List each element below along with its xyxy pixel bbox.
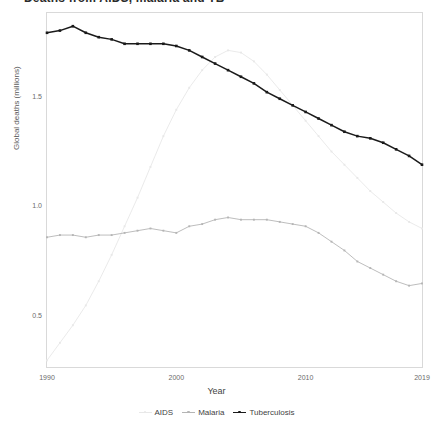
data-point	[162, 135, 164, 137]
data-point	[279, 221, 281, 223]
data-point	[175, 109, 177, 111]
data-point	[317, 117, 320, 120]
data-point	[59, 29, 62, 32]
data-point	[46, 359, 48, 361]
data-point	[188, 87, 190, 89]
data-point	[162, 42, 165, 45]
data-point	[214, 62, 217, 65]
data-point	[72, 25, 75, 28]
data-point	[421, 163, 424, 166]
x-tick-label: 2010	[286, 374, 326, 382]
data-point	[124, 225, 126, 227]
data-point	[330, 124, 333, 127]
data-point	[188, 225, 190, 227]
data-point	[72, 324, 74, 326]
data-point	[266, 74, 268, 76]
data-point	[356, 135, 359, 138]
legend-key-malaria[interactable]: Malaria	[182, 408, 224, 417]
y-tick-label: 1.0	[20, 202, 42, 210]
data-point	[292, 223, 294, 225]
data-point	[318, 135, 320, 137]
data-point	[97, 36, 100, 39]
data-point	[201, 223, 203, 225]
data-point	[395, 280, 397, 282]
data-point	[72, 234, 74, 236]
data-point	[395, 212, 397, 214]
legend-key-aids[interactable]: AIDS	[139, 408, 174, 417]
data-point	[227, 69, 230, 72]
legend-swatch-icon	[233, 412, 246, 413]
data-point	[214, 219, 216, 221]
data-point	[408, 221, 410, 223]
data-point	[85, 304, 87, 306]
series-line	[47, 217, 422, 285]
x-tick-label: 1990	[27, 374, 67, 382]
x-tick-label: 2000	[156, 374, 196, 382]
chart-legend: AIDSMalariaTuberculosis	[0, 408, 433, 417]
legend-swatch-icon	[182, 412, 195, 413]
data-point	[331, 241, 333, 243]
data-point	[46, 31, 49, 34]
data-point	[369, 190, 371, 192]
data-point	[240, 219, 242, 221]
data-point	[149, 228, 151, 230]
x-tick-label: 2019	[402, 374, 433, 382]
legend-label: AIDS	[155, 408, 174, 417]
data-point	[253, 60, 255, 62]
data-point	[278, 97, 281, 100]
data-point	[408, 155, 411, 158]
x-axis-label: Year	[0, 386, 433, 396]
data-point	[304, 111, 307, 114]
data-point	[369, 267, 371, 269]
data-point	[240, 75, 243, 78]
data-point	[291, 104, 294, 107]
data-point	[175, 45, 178, 48]
data-point	[137, 197, 139, 199]
legend-key-tuberculosis[interactable]: Tuberculosis	[233, 408, 294, 417]
data-point	[266, 219, 268, 221]
series-tuberculosis	[46, 25, 424, 166]
data-point	[110, 38, 113, 41]
data-point	[369, 137, 372, 140]
series-aids	[46, 49, 423, 361]
data-point	[382, 141, 385, 144]
data-point	[175, 232, 177, 234]
data-point	[356, 261, 358, 263]
data-point	[136, 42, 139, 45]
chart-page: Deaths from AIDS, malaria and TB 1.51.00…	[0, 0, 433, 441]
data-point	[149, 42, 152, 45]
data-point	[382, 274, 384, 276]
series-line	[47, 50, 422, 360]
data-point	[421, 228, 423, 230]
data-point	[188, 49, 191, 52]
data-point	[124, 232, 126, 234]
y-axis-label: Global deaths (millions)	[12, 66, 21, 150]
data-point	[253, 82, 256, 85]
y-tick-label: 0.5	[20, 312, 42, 320]
data-point	[137, 230, 139, 232]
data-point	[343, 250, 345, 252]
data-point	[305, 120, 307, 122]
data-point	[111, 254, 113, 256]
data-point	[162, 230, 164, 232]
data-point	[253, 219, 255, 221]
y-axis-label-wrap: Global deaths (millions)	[12, 150, 22, 270]
data-point	[343, 130, 346, 133]
data-point	[279, 89, 281, 91]
data-point	[98, 280, 100, 282]
data-point	[382, 201, 384, 203]
data-point	[149, 166, 151, 168]
data-point	[356, 177, 358, 179]
data-point	[123, 42, 126, 45]
data-point	[98, 234, 100, 236]
data-point	[111, 234, 113, 236]
data-point	[318, 232, 320, 234]
data-point	[408, 285, 410, 287]
series-malaria	[46, 217, 423, 287]
data-point	[201, 69, 203, 71]
legend-swatch-icon	[139, 412, 152, 413]
data-point	[84, 31, 87, 34]
data-point	[240, 52, 242, 54]
data-point	[421, 282, 423, 284]
data-point	[59, 234, 61, 236]
